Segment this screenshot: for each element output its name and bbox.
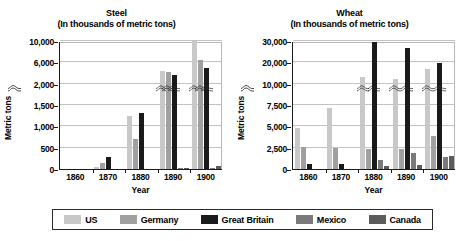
legend-item-mexico: Mexico [296,215,346,225]
gridline [60,40,222,41]
xtick-label: 1870 [332,172,350,182]
ytick-label: 10,000 [262,80,287,89]
ytick-mark [287,63,291,64]
chart-steel: Steel (In thousands of metric tons) Metr… [0,0,233,205]
chart-steel-xlabel: Year [59,185,222,195]
bar [94,167,99,169]
bar-group [423,42,456,169]
chart-wheat-xaxis-labels: 18601870188018901900 [292,172,455,186]
ytick-label: 6,000 [34,59,54,68]
ytick-mark [287,42,291,43]
xtick-label: 1860 [299,172,317,182]
xtick-label: 1890 [397,172,415,182]
bar-group [293,42,326,169]
ytick-mark [287,106,291,107]
bar-group [93,42,126,169]
bar [399,149,404,169]
chart-legend: USGermanyGreat BritainMexicoCanada [52,209,433,230]
chart-wheat-yaxis-ticks: 02,5005,0007,50010,00020,00030,000 [247,42,291,170]
bar-group [190,42,223,169]
bar [204,68,209,169]
chart-wheat-subtitle: (In thousands of metric tons) [233,19,466,30]
legend-item-canada: Canada [369,215,421,225]
bar [160,71,165,169]
legend-label: Germany [141,215,179,225]
bar [339,164,344,169]
chart-steel-plot-area [59,42,222,170]
chart-steel-ylabel: Metric tons [3,128,13,140]
xtick-label: 1890 [164,172,182,182]
legend-item-us: US [64,215,97,225]
bar [431,136,436,169]
bar [449,156,454,169]
legend-label: Mexico [317,215,346,225]
charts-row: Steel (In thousands of metric tons) Metr… [0,0,466,205]
bar [372,42,377,169]
axis-break-icon [8,80,21,89]
legend-label: US [85,215,97,225]
legend-swatch [64,215,81,224]
legend-item-great-britain: Great Britain [201,215,274,225]
bar [184,168,189,169]
chart-wheat-bars [293,42,455,169]
ytick-mark [54,42,58,43]
bar [210,168,215,169]
bar [333,148,338,169]
ytick-mark [54,149,58,150]
xtick-label: 1880 [364,172,382,182]
ytick-mark [287,127,291,128]
chart-wheat: Wheat (In thousands of metric tons) Metr… [233,0,466,205]
xtick-label: 1900 [430,172,448,182]
ytick-label: 5,000 [267,123,287,132]
bar [384,166,389,169]
bar [192,41,197,169]
ytick-label: 1,000 [34,123,54,132]
bar [106,157,111,169]
ytick-mark [54,106,58,107]
ytick-label: 500 [40,144,54,153]
ytick-mark [287,149,291,150]
bar [366,149,371,169]
bar-group [158,42,191,169]
chart-steel-plot-wrap: Metric tons 05001,0001,5002,0006,00010,0… [0,42,233,205]
bar [411,153,416,169]
legend-label: Great Britain [222,215,274,225]
chart-wheat-plot-area [292,42,455,170]
chart-steel-xaxis-labels: 18601870188018901900 [59,172,222,186]
legend-swatch [120,215,137,224]
xtick-label: 1870 [99,172,117,182]
bar [425,69,430,169]
ytick-mark [54,85,58,86]
legend-swatch [201,215,218,224]
chart-steel-title: Steel [0,0,233,19]
chart-wheat-xlabel: Year [292,185,455,195]
bar [295,128,300,169]
ytick-label: 2,000 [34,80,54,89]
bar [127,116,132,169]
bar [405,48,410,169]
ytick-label: 1,500 [34,102,54,111]
axis-break-icon [241,80,254,89]
bar-group [391,42,424,169]
bar-group [125,42,158,169]
xtick-label: 1860 [66,172,84,182]
ytick-mark [287,170,291,171]
legend-label: Canada [390,215,421,225]
chart-wheat-plot-wrap: Metric tons 02,5005,0007,50010,00020,000… [233,42,466,205]
gridline [293,40,455,41]
bar-group [60,42,93,169]
bar [360,77,365,169]
legend-item-germany: Germany [120,215,179,225]
bar [393,79,398,169]
bar [307,164,312,169]
ytick-mark [54,170,58,171]
ytick-label: 30,000 [262,38,287,47]
chart-wheat-ylabel: Metric tons [236,128,246,140]
bar [437,63,442,169]
bar [378,160,383,169]
bar [133,139,138,169]
bar [100,163,105,169]
ytick-mark [54,63,58,64]
legend-swatch [296,215,313,224]
legend-swatch [369,215,386,224]
